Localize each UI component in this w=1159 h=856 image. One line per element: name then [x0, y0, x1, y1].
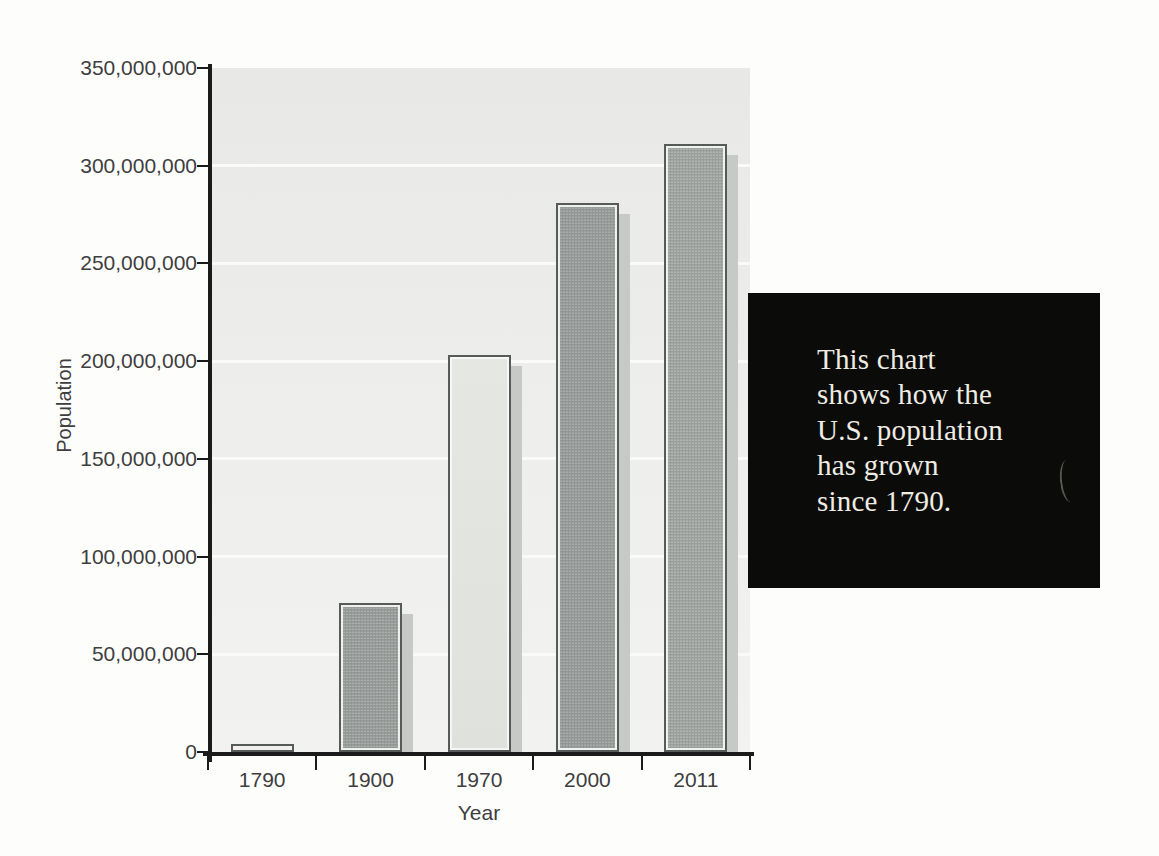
bar-1900: [339, 603, 402, 752]
x-axis-title: Year: [419, 801, 539, 825]
y-tick-label: 250,000,000: [40, 251, 197, 275]
y-tick-mark: [197, 262, 208, 264]
y-tick-mark: [197, 67, 208, 69]
bar-2000: [556, 203, 619, 752]
y-tick-label: 300,000,000: [40, 154, 197, 178]
y-tick-label: 350,000,000: [40, 56, 197, 80]
y-tick-mark: [197, 751, 208, 753]
bar-1970: [448, 355, 511, 752]
callout-line: has grown: [817, 448, 1070, 483]
y-tick-label: 0: [40, 740, 197, 764]
y-tick-mark: [197, 165, 208, 167]
y-tick-label: 50,000,000: [40, 642, 197, 666]
x-category-label-2000: 2000: [527, 768, 647, 792]
scanned-page: 050,000,000100,000,000150,000,000200,000…: [0, 0, 1159, 856]
bar-1790: [231, 744, 294, 752]
callout-line: since 1790.: [817, 484, 1070, 519]
x-category-label-1790: 1790: [202, 768, 322, 792]
x-category-label-2011: 2011: [636, 768, 756, 792]
y-tick-mark: [197, 556, 208, 558]
y-tick-mark: [197, 360, 208, 362]
y-tick-label: 100,000,000: [40, 545, 197, 569]
y-axis-title: Population: [53, 336, 76, 476]
y-tick-mark: [197, 458, 208, 460]
x-axis-line: [203, 752, 754, 756]
callout-line: shows how the: [817, 377, 1070, 412]
y-axis-line: [208, 64, 212, 762]
callout-line: U.S. population: [817, 413, 1070, 448]
x-category-label-1900: 1900: [311, 768, 431, 792]
y-tick-mark: [197, 653, 208, 655]
bar-2011: [664, 144, 727, 752]
x-category-label-1970: 1970: [419, 768, 539, 792]
callout-line: This chart: [817, 342, 1070, 377]
callout-box: This chartshows how theU.S. populationha…: [748, 293, 1100, 588]
